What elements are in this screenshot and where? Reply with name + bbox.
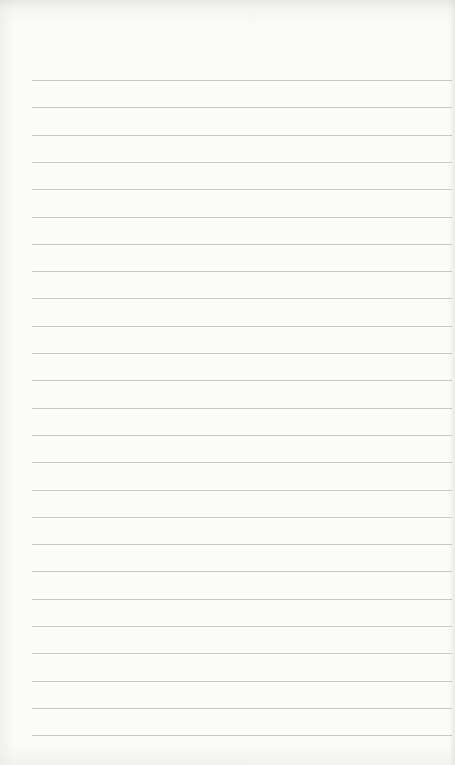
ruled-line <box>32 408 452 409</box>
ruled-line <box>32 735 452 736</box>
ruled-line <box>32 462 452 463</box>
ruled-line <box>32 80 452 81</box>
ruled-line <box>32 681 452 682</box>
ruled-line <box>32 189 452 190</box>
lined-paper-page <box>0 0 455 765</box>
ruled-line <box>32 107 452 108</box>
ruled-line <box>32 380 452 381</box>
ruled-line <box>32 271 452 272</box>
ruled-line <box>32 162 452 163</box>
ruled-line <box>32 326 452 327</box>
ruled-line <box>32 135 452 136</box>
ruled-line <box>32 490 452 491</box>
ruled-line <box>32 298 452 299</box>
ruled-line <box>32 626 452 627</box>
ruled-line <box>32 244 452 245</box>
ruled-line <box>32 435 452 436</box>
ruled-line <box>32 653 452 654</box>
ruled-line <box>32 217 452 218</box>
ruled-line <box>32 353 452 354</box>
ruled-line <box>32 517 452 518</box>
ruled-line <box>32 544 452 545</box>
ruled-line <box>32 599 452 600</box>
ruled-line <box>32 571 452 572</box>
ruled-line <box>32 708 452 709</box>
